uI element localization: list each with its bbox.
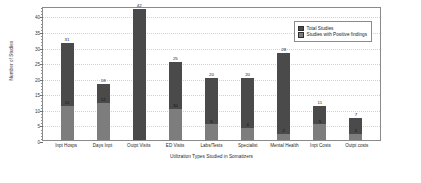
bar-positive-findings[interactable]: 5 (313, 124, 326, 140)
bar-value-label-positive: 2 (355, 128, 357, 133)
bar-value-label-total: 11 (318, 100, 323, 105)
bar-total-studies[interactable]: 282 (277, 53, 290, 140)
bar-value-label-total: 20 (245, 72, 250, 77)
x-tick-label: Outpt costs (343, 143, 371, 148)
bar-value-label-positive: 10 (173, 103, 178, 108)
bar-value-label-positive: 4 (246, 122, 248, 127)
chart-legend: Total Studies Studies with Positive find… (294, 21, 372, 42)
bar-value-label-total: 28 (281, 47, 286, 52)
x-tick-label: Inpt Costs (306, 143, 334, 148)
legend-swatch-total-studies (298, 26, 304, 32)
x-tick-label: Labs/Tests (197, 143, 225, 148)
bar-value-label-positive: 5 (210, 119, 212, 124)
x-tick-label: Inpt Hosps (52, 143, 80, 148)
bar-total-studies[interactable]: 204 (241, 78, 254, 140)
bar-positive-findings[interactable]: 2 (349, 134, 362, 140)
bar-positive-findings[interactable]: 11 (61, 106, 74, 140)
plot-area: 0510152025303540 31111812422510205204282… (42, 7, 381, 141)
x-tick-label: Days Inpt (88, 143, 116, 148)
bar-value-label-positive: 5 (319, 119, 321, 124)
bar-total-studies[interactable]: 115 (313, 106, 326, 140)
bar-value-label-positive: 11 (65, 100, 69, 105)
bar-value-label-positive: 12 (101, 97, 106, 102)
bar-total-studies[interactable]: 205 (205, 78, 218, 140)
bar-positive-findings[interactable]: 12 (97, 103, 110, 140)
legend-item-total-studies: Total Studies (298, 26, 367, 32)
y-axis-title: Number of Studies (9, 26, 14, 96)
legend-label-total-studies: Total Studies (307, 26, 334, 31)
bar-value-label-total: 42 (137, 3, 142, 8)
x-tick-label: ED Visits (161, 143, 189, 148)
bar-positive-findings[interactable]: 10 (169, 109, 182, 140)
bar-total-studies[interactable]: 3111 (61, 43, 74, 140)
bar-value-label-total: 20 (209, 72, 214, 77)
x-tick-label: Mental Health (270, 143, 298, 148)
bar-group[interactable]: 204 (234, 8, 262, 140)
x-axis-tick-labels: Inpt HospsDays InptOutpt VisitsED Visits… (42, 143, 381, 148)
bar-positive-findings[interactable]: 2 (277, 134, 290, 140)
bar-value-label-total: 18 (101, 78, 106, 83)
bar-value-label-total: 25 (173, 56, 178, 61)
x-tick-label: Specialist (234, 143, 262, 148)
legend-swatch-positive-findings (298, 32, 304, 38)
bar-total-studies[interactable]: 72 (349, 118, 362, 140)
x-axis-title: Utilization Types Studied in Somatizers (42, 154, 381, 159)
bar-chart: Number of Studies 0510152025303540 31111… (0, 0, 421, 183)
bar-value-label-total: 7 (355, 112, 357, 117)
bar-total-studies[interactable]: 42 (133, 9, 146, 140)
legend-label-positive-findings: Studies with Positive findings (307, 32, 367, 37)
bar-value-label-total: 31 (65, 37, 70, 42)
bar-total-studies[interactable]: 1812 (97, 84, 110, 140)
bar-group[interactable]: 205 (197, 8, 225, 140)
legend-item-positive-findings: Studies with Positive findings (298, 32, 367, 38)
bar-positive-findings[interactable]: 5 (205, 124, 218, 140)
bar-positive-findings[interactable]: 4 (241, 128, 254, 140)
bar-total-studies[interactable]: 2510 (169, 62, 182, 140)
x-tick-label: Outpt Visits (125, 143, 153, 148)
bar-group[interactable]: 3111 (53, 8, 81, 140)
bar-group[interactable]: 1812 (89, 8, 117, 140)
bar-value-label-positive: 2 (283, 128, 285, 133)
bar-group[interactable]: 2510 (161, 8, 189, 140)
bar-group[interactable]: 42 (125, 8, 153, 140)
